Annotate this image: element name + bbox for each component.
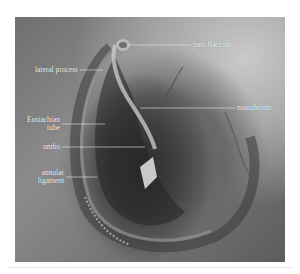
anatomy-drawing — [15, 17, 285, 262]
label-manubrium: manubrium — [237, 104, 272, 112]
eardrum-photo: pars flaccida lateral process manubrium … — [15, 17, 285, 262]
label-annular-line2: ligament — [20, 177, 64, 185]
label-eustachian-tube: Eustachian tube — [20, 116, 60, 132]
label-umbo: umbo — [20, 143, 60, 151]
label-annular-ligament: annular ligament — [20, 169, 64, 185]
caption-divider — [8, 267, 292, 268]
label-pars-flaccida: pars flaccida — [193, 41, 231, 49]
label-lateral-process: lateral process — [30, 66, 78, 74]
label-eustachian-line2: tube — [20, 124, 60, 132]
